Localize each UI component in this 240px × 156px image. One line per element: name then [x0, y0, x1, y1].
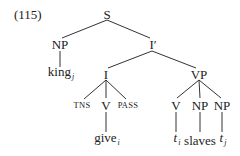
- leaf-trace-i-word: t: [174, 130, 178, 145]
- node-vp: VP: [191, 68, 208, 81]
- node-pass: PASS: [118, 99, 139, 112]
- node-vp-np-object: NP: [192, 99, 209, 112]
- node-vp-np-trace: NP: [214, 99, 231, 112]
- leaf-give-index: i: [118, 138, 120, 147]
- leaf-give: givei: [94, 131, 120, 149]
- leaf-trace-j-word: t: [220, 130, 224, 145]
- leaf-give-word: give: [94, 130, 116, 145]
- leaf-king-word: king: [48, 64, 71, 79]
- node-tns: TNS: [74, 99, 91, 112]
- leaf-king: kingj: [48, 65, 74, 83]
- leaf-trace-i-index: i: [178, 138, 180, 147]
- leaf-trace-j-index: j: [224, 138, 226, 147]
- leaf-king-index: j: [72, 72, 74, 81]
- leaf-slaves: slaves: [184, 134, 216, 147]
- node-i-bar: I′: [149, 38, 156, 51]
- node-infl-v: V: [101, 99, 110, 112]
- leaf-trace-j: tj: [220, 131, 227, 149]
- node-i: I: [104, 68, 108, 81]
- node-s: S: [103, 8, 110, 21]
- node-subject-np: NP: [52, 38, 69, 51]
- leaf-trace-i: ti: [174, 131, 181, 149]
- node-vp-v: V: [171, 99, 180, 112]
